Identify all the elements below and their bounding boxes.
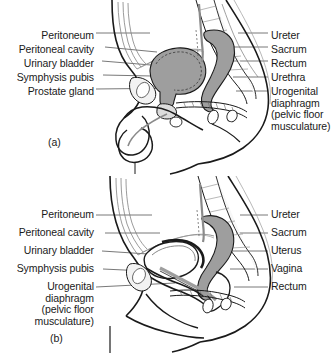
figure-panel-b: Peritoneum Peritoneal cavity Urinary bla… bbox=[0, 176, 334, 353]
peritoneum-layers bbox=[118, 2, 146, 69]
label-uterus-b: Uterus bbox=[271, 245, 301, 257]
label-vagina-b: Vagina bbox=[271, 263, 302, 275]
gluteal-fold bbox=[212, 124, 240, 142]
label-peritoneum-b: Peritoneum bbox=[41, 209, 94, 221]
label-symphysis-pubis-b: Symphysis pubis bbox=[17, 263, 94, 275]
label-urinary-bladder-b: Urinary bladder bbox=[24, 245, 94, 257]
label-urethra-a: Urethra bbox=[271, 72, 305, 84]
rectum bbox=[202, 30, 235, 112]
peritoneum-layers-b bbox=[116, 178, 147, 255]
label-peritoneal-cavity-a: Peritoneal cavity bbox=[19, 44, 94, 56]
figure-panel-a: Peritoneum Peritoneal cavity Urinary bla… bbox=[0, 0, 334, 176]
caption-a: (a) bbox=[48, 136, 61, 148]
labial-outline bbox=[146, 294, 198, 328]
bulb-of-penis bbox=[170, 117, 182, 127]
anal-canal-b bbox=[201, 298, 214, 314]
label-symphysis-pubis-a: Symphysis pubis bbox=[17, 72, 94, 84]
urinary-bladder bbox=[150, 48, 206, 108]
label-ureter-a: Ureter bbox=[271, 30, 300, 42]
label-urinary-bladder-a: Urinary bladder bbox=[24, 58, 94, 70]
label-rectum-b: Rectum bbox=[271, 281, 307, 293]
ureter bbox=[199, 4, 203, 62]
body-outline-back-b bbox=[200, 176, 270, 342]
label-sacrum-a: Sacrum bbox=[271, 44, 307, 56]
ureter-hidden-segment-b bbox=[197, 210, 199, 238]
label-rectum-a: Rectum bbox=[271, 58, 307, 70]
label-urogenital-diaphragm-b: Urogenital diaphragm (pelvic floor muscu… bbox=[35, 281, 95, 327]
label-peritoneum-a: Peritoneum bbox=[41, 30, 94, 42]
buttock-contour-b bbox=[172, 342, 200, 352]
label-peritoneal-cavity-b: Peritoneal cavity bbox=[19, 227, 94, 239]
label-urogenital-diaphragm-a: Urogenital diaphragm (pelvic floor muscu… bbox=[271, 86, 331, 132]
caption-b: (b) bbox=[50, 332, 63, 344]
label-ureter-b: Ureter bbox=[271, 209, 300, 221]
buttock-contour bbox=[170, 164, 198, 174]
label-sacrum-b: Sacrum bbox=[271, 227, 307, 239]
label-prostate-gland-a: Prostate gland bbox=[28, 86, 94, 98]
